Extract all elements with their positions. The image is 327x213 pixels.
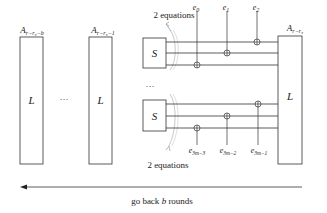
l-box-label: L bbox=[286, 90, 293, 102]
left-ellipsis: ··· bbox=[60, 94, 69, 104]
round-title-a-r-r3-b: Ar−r₃−b bbox=[19, 25, 43, 36]
s-box-bottom: S bbox=[143, 100, 166, 131]
l-box-label: L bbox=[27, 94, 34, 106]
left-l-box-1: L Ar−r₃−b bbox=[19, 25, 43, 164]
xor-label-e1: e1 bbox=[223, 3, 230, 13]
s-box-top: S bbox=[143, 38, 166, 68]
equation-bracket-bottom bbox=[169, 94, 175, 146]
round-title-a-r-r3-1: Ar−r₃−1 bbox=[90, 25, 114, 36]
xor-label-e3m-2: e3m−2 bbox=[220, 146, 237, 156]
xor-label-e2: e2 bbox=[253, 3, 260, 13]
top-xor-gates bbox=[194, 11, 260, 68]
top-wires bbox=[166, 42, 278, 65]
arrow-left-icon bbox=[20, 185, 27, 190]
round-title-a-r-r3: Ar−r₃ bbox=[286, 23, 303, 34]
right-l-box: L Ar−r₃ bbox=[278, 23, 303, 164]
s-box-label: S bbox=[152, 47, 158, 59]
s-box-label: S bbox=[152, 110, 158, 122]
equation-bracket-top bbox=[170, 30, 175, 70]
bottom-wires bbox=[166, 104, 278, 128]
xor-label-e3m-1: e3m−1 bbox=[251, 146, 268, 156]
xor-label-e3m-3: e3m−3 bbox=[189, 146, 206, 156]
bottom-equations-annotation: 2 equations bbox=[147, 160, 189, 170]
diagram-canvas: L Ar−r₃−b ··· L Ar−r₃−1 2 equations S e0… bbox=[0, 0, 327, 213]
bottom-xor-gates bbox=[194, 101, 261, 145]
left-l-box-2: L Ar−r₃−1 bbox=[89, 25, 115, 164]
annotation-arrow-icon bbox=[166, 146, 170, 151]
top-equations-annotation: 2 equations bbox=[153, 10, 195, 20]
xor-label-e0: e0 bbox=[193, 3, 200, 13]
l-box-label: L bbox=[96, 94, 103, 106]
middle-ellipsis: ··· bbox=[146, 81, 155, 91]
go-back-arrow bbox=[20, 185, 302, 190]
go-back-label: go back b rounds bbox=[131, 196, 193, 206]
